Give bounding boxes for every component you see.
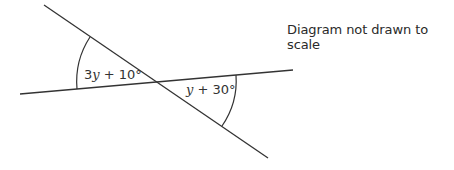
scale-note: Diagram not drawn to scale: [287, 22, 454, 52]
angle-label-right: y + 30°: [185, 82, 236, 97]
angle-label-left: 3y + 10°: [84, 67, 142, 82]
line-b: [20, 70, 293, 94]
